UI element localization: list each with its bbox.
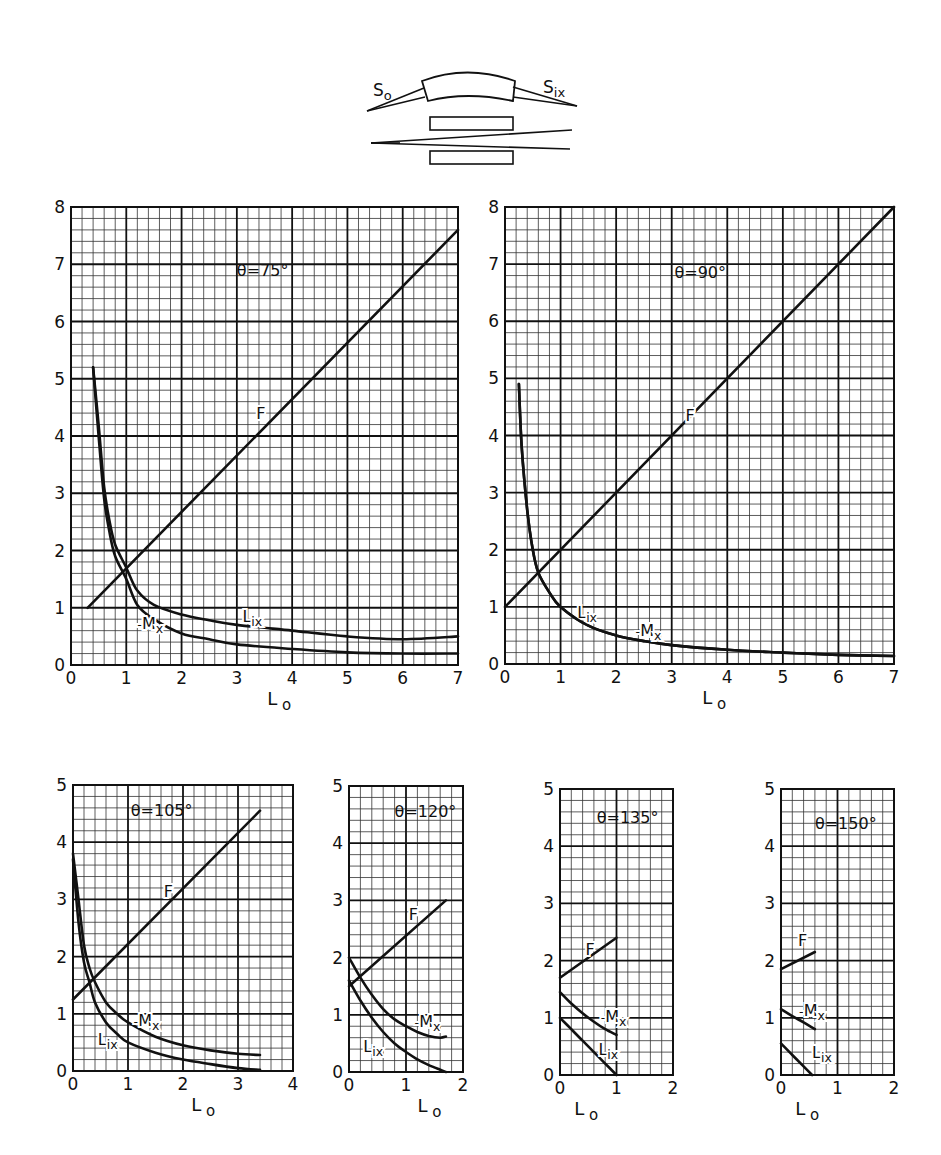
series-label: F [409, 905, 418, 924]
x-tick-label: 0 [500, 667, 511, 687]
y-tick-label: 1 [488, 597, 499, 617]
y-tick-label: 0 [764, 1065, 775, 1085]
x-tick-label: 7 [889, 667, 900, 687]
y-tick-label: 3 [54, 483, 65, 503]
x-tick-label: 1 [611, 1078, 622, 1098]
series-label: F [686, 406, 695, 425]
y-tick-label: 2 [488, 540, 499, 560]
y-tick-label: 0 [332, 1062, 343, 1082]
y-tick-label: 7 [488, 254, 499, 274]
x-tick-label: 0 [344, 1075, 355, 1095]
y-tick-label: 4 [764, 836, 775, 856]
y-tick-label: 3 [764, 893, 775, 913]
x-tick-label: 1 [121, 668, 132, 688]
x-tick-label: 4 [722, 667, 733, 687]
x-tick-label: 5 [777, 667, 788, 687]
chart-title: θ=105° [131, 801, 193, 820]
chart-title: θ=90° [674, 263, 726, 282]
x-tick-label: 2 [668, 1078, 679, 1098]
series-label: F [798, 931, 807, 950]
x-tick-label: 2 [889, 1078, 900, 1098]
x-tick-label: 2 [458, 1075, 469, 1095]
x-tick-label: 6 [833, 667, 844, 687]
chart-title: θ=135° [597, 808, 659, 827]
y-tick-label: 4 [332, 833, 343, 853]
y-tick-label: 5 [56, 775, 67, 795]
y-tick-label: 5 [54, 369, 65, 389]
y-tick-label: 1 [543, 1008, 554, 1028]
x-tick-label: 2 [178, 1074, 189, 1094]
y-tick-label: 2 [56, 947, 67, 967]
x-tick-label: 6 [397, 668, 408, 688]
x-tick-label: 1 [123, 1074, 134, 1094]
x-tick-label: 5 [342, 668, 353, 688]
chart-title: θ=120° [395, 802, 457, 821]
y-tick-label: 2 [764, 951, 775, 971]
y-tick-label: 4 [54, 426, 65, 446]
chart-theta75: 01234567012345678L oθ=75°FLix-Mx [54, 197, 463, 714]
y-tick-label: 2 [543, 951, 554, 971]
y-tick-label: 6 [54, 312, 65, 332]
x-tick-label: 3 [231, 668, 242, 688]
y-tick-label: 1 [56, 1004, 67, 1024]
figure-canvas: So Six 01234567012345678L oθ=75°FLix-Mx0… [0, 0, 941, 1155]
y-tick-label: 3 [56, 889, 67, 909]
y-tick-label: 2 [54, 541, 65, 561]
chart-title: θ=75° [237, 261, 289, 280]
x-tick-label: 4 [287, 668, 298, 688]
y-tick-label: 1 [54, 598, 65, 618]
chart-title: θ=150° [815, 814, 877, 833]
y-tick-label: 2 [332, 948, 343, 968]
x-tick-label: 1 [832, 1078, 843, 1098]
x-tick-label: 2 [611, 667, 622, 687]
y-tick-label: 6 [488, 311, 499, 331]
y-tick-label: 1 [764, 1008, 775, 1028]
y-tick-label: 4 [543, 836, 554, 856]
y-tick-label: 4 [488, 426, 499, 446]
series-label: F [256, 404, 265, 423]
x-tick-label: 0 [66, 668, 77, 688]
series-label: F [164, 882, 173, 901]
x-tick-label: 0 [68, 1074, 79, 1094]
x-tick-label: 4 [288, 1074, 299, 1094]
x-tick-label: 0 [776, 1078, 787, 1098]
y-tick-label: 5 [488, 368, 499, 388]
y-tick-label: 7 [54, 254, 65, 274]
y-tick-label: 8 [488, 197, 499, 217]
y-tick-label: 4 [56, 832, 67, 852]
y-tick-label: 5 [764, 779, 775, 799]
x-tick-label: 7 [453, 668, 464, 688]
x-tick-label: 3 [233, 1074, 244, 1094]
x-tick-label: 2 [176, 668, 187, 688]
x-tick-label: 0 [555, 1078, 566, 1098]
y-tick-label: 3 [488, 483, 499, 503]
y-tick-label: 0 [56, 1061, 67, 1081]
y-tick-label: 1 [332, 1005, 343, 1025]
y-tick-label: 3 [332, 890, 343, 910]
x-tick-label: 3 [666, 667, 677, 687]
y-tick-label: 0 [543, 1065, 554, 1085]
y-tick-label: 0 [488, 654, 499, 674]
series-label: F [585, 940, 594, 959]
y-tick-label: 3 [543, 893, 554, 913]
x-tick-label: 1 [555, 667, 566, 687]
background [0, 0, 941, 1155]
x-tick-label: 1 [401, 1075, 412, 1095]
y-tick-label: 5 [543, 779, 554, 799]
y-tick-label: 8 [54, 197, 65, 217]
y-tick-label: 0 [54, 655, 65, 675]
y-tick-label: 5 [332, 776, 343, 796]
